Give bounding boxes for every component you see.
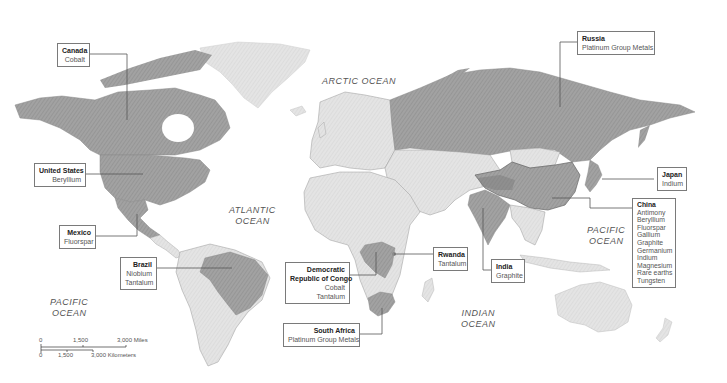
callout-united-states: United States Beryllium (34, 163, 86, 187)
scale-miles-0: 0 (39, 337, 42, 343)
callout-india: India Graphite (491, 259, 525, 283)
mexico-shape (115, 198, 160, 238)
ocean-label-arctic: ARCTIC OCEAN (322, 76, 396, 87)
callout-china: China Antimony Beryllium Fluorspar Galli… (632, 198, 676, 288)
scale-km-0: 0 (39, 352, 42, 358)
australia-shape (555, 282, 632, 332)
country-name: Mexico (64, 228, 91, 237)
india-shape (468, 190, 510, 245)
country-name: India (496, 262, 520, 271)
mineral: Beryllium (39, 175, 81, 184)
ocean-label-pacific-east: PACIFICOCEAN (587, 225, 625, 247)
country-name: Japan (662, 170, 682, 179)
country-name: Russia (582, 34, 650, 43)
ocean-label-atlantic: ATLANTICOCEAN (229, 205, 276, 227)
greenland-shape (200, 42, 310, 108)
callout-brazil: Brazil Niobium Tantalum (120, 257, 157, 290)
iceland-shape (290, 106, 306, 116)
ocean-label-pacific-west: PACIFICOCEAN (50, 297, 88, 319)
country-name: United States (39, 166, 81, 175)
scale-miles-1500: 1,500 (73, 337, 88, 343)
mineral: Antimony (637, 209, 671, 217)
ocean-label-indian: INDIANOCEAN (461, 308, 496, 330)
mineral: Indium (662, 179, 682, 188)
country-name: Rwanda (438, 250, 463, 259)
world-map (0, 0, 727, 383)
country-name: Democratic (290, 265, 345, 274)
hudson-bay (162, 114, 194, 142)
country-name: Republic of Congo (290, 274, 345, 283)
callout-russia: Russia Platinum Group Metals (577, 31, 655, 55)
mineral: Tantalum (290, 292, 345, 301)
southeast-asia-shape (510, 205, 545, 245)
country-name: Canada (62, 46, 85, 55)
mineral: Tantalum (438, 259, 463, 268)
mineral: Cobalt (62, 55, 85, 64)
scale-miles-3000: 3,000 Miles (117, 337, 148, 343)
scale-km-1500: 1,500 (58, 352, 73, 358)
central-america-shape (150, 235, 182, 258)
mineral: Tantalum (125, 278, 152, 287)
country-name: Brazil (125, 260, 152, 269)
mineral: Platinum Group Metals (582, 43, 650, 52)
mineral: Platinum Group Metals (288, 335, 355, 344)
russia-shape (390, 68, 695, 162)
callout-canada: Canada Cobalt (57, 43, 90, 67)
mineral: Beryllium (637, 216, 671, 224)
mineral: Rare earths (637, 269, 671, 277)
country-name: China (637, 201, 671, 209)
callout-mexico: Mexico Fluorspar (59, 225, 96, 249)
callout-rwanda: Rwanda Tantalum (433, 247, 468, 271)
japan-shape (585, 160, 602, 192)
madagascar-shape (422, 278, 434, 302)
mineral: Graphite (496, 271, 520, 280)
mineral: Germanium (637, 247, 671, 255)
arctic-islands-shape (100, 50, 212, 88)
mineral: Fluorspar (64, 237, 91, 246)
country-name: South Africa (288, 326, 355, 335)
mineral: Niobium (125, 269, 152, 278)
callout-japan: Japan Indium (657, 167, 687, 191)
scale-km-3000: 3,000 Kilometers (91, 352, 136, 358)
indonesia-shape (520, 255, 610, 272)
kamchatka-shape (638, 125, 650, 148)
mineral: Fluorspar (637, 224, 671, 232)
mineral: Gallium (637, 231, 671, 239)
usa-shape (100, 155, 210, 205)
mineral: Graphite (637, 239, 671, 247)
mineral: Magnesium (637, 262, 671, 270)
callout-south-africa: South Africa Platinum Group Metals (283, 323, 360, 347)
canada-shape (15, 88, 230, 155)
new-zealand-shape (656, 318, 672, 342)
mineral: Tungsten (637, 277, 671, 285)
mineral: Cobalt (290, 283, 345, 292)
mineral: Indium (637, 254, 671, 262)
callout-drc: Democratic Republic of Congo Cobalt Tant… (285, 262, 350, 304)
